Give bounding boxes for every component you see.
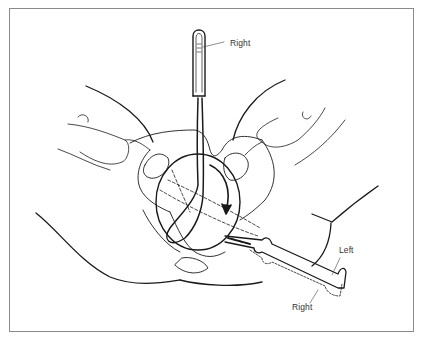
rotation-arrow	[210, 165, 231, 214]
label-left-blade: Left	[339, 245, 354, 255]
label-right-handle: Right	[230, 38, 250, 48]
leader-lines	[203, 42, 340, 303]
forceps-right-handle-dotted	[250, 250, 342, 296]
forceps-pelvis-illustration	[0, 0, 424, 340]
right-hand	[245, 108, 345, 165]
dashed-blade-paths	[160, 170, 260, 236]
label-right-blade: Right	[292, 302, 312, 312]
left-hand	[58, 115, 150, 170]
thigh-outlines	[36, 80, 378, 285]
forceps-handle-right	[193, 30, 205, 96]
